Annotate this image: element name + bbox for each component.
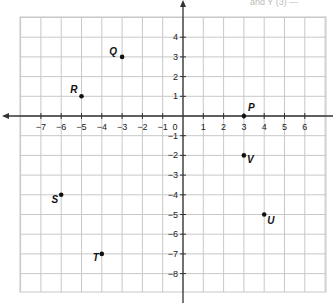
point-label: S	[52, 194, 59, 205]
x-tick-label: −3	[117, 122, 127, 132]
x-tick-label: 6	[302, 122, 307, 132]
y-tick-label: 1	[173, 91, 178, 101]
x-tick-label: 4	[262, 122, 267, 132]
point-dot-icon	[120, 55, 125, 60]
y-tick-label: 3	[173, 52, 178, 62]
point-dot-icon	[242, 114, 247, 119]
point-dot-icon	[242, 153, 247, 158]
y-tick-label: 4	[173, 32, 178, 42]
y-axis-arrow-icon	[180, 0, 186, 7]
x-axis-arrow-icon	[2, 113, 9, 119]
y-tick-label: −4	[168, 190, 178, 200]
point-label: U	[267, 215, 275, 226]
x-tick-label: −4	[97, 122, 107, 132]
y-tick-label: −2	[168, 150, 178, 160]
point-label: Q	[109, 46, 117, 57]
x-tick-label: −7	[36, 122, 46, 132]
y-tick-label: −5	[168, 210, 178, 220]
point-label: V	[247, 154, 255, 165]
point-dot-icon	[59, 193, 64, 198]
point-label: T	[93, 252, 100, 263]
x-tick-label: 2	[221, 122, 226, 132]
x-tick-label: 1	[201, 122, 206, 132]
x-tick-label: 3	[241, 122, 246, 132]
y-tick-label: −6	[168, 229, 178, 239]
y-tick-label: 2	[173, 72, 178, 82]
x-tick-label: −2	[137, 122, 147, 132]
point-dot-icon	[100, 252, 105, 257]
coordinate-plane: −7−6−5−4−3−2−101234564321−1−2−3−4−5−6−7−…	[0, 0, 333, 303]
point-label: R	[70, 84, 78, 95]
point-label: P	[248, 102, 255, 113]
y-tick-label: −7	[168, 249, 178, 259]
x-tick-label: 5	[282, 122, 287, 132]
y-tick-label: −3	[168, 170, 178, 180]
x-tick-label: −6	[56, 122, 66, 132]
point-dot-icon	[79, 94, 84, 99]
point-t: T	[93, 252, 104, 263]
point-dot-icon	[262, 212, 267, 217]
y-tick-label: −1	[168, 131, 178, 141]
x-tick-label: −1	[158, 122, 168, 132]
plotted-points: PQRSTUV	[52, 46, 276, 263]
y-tick-label: −8	[168, 269, 178, 279]
x-tick-label: −5	[76, 122, 86, 132]
point-s: S	[52, 193, 64, 205]
